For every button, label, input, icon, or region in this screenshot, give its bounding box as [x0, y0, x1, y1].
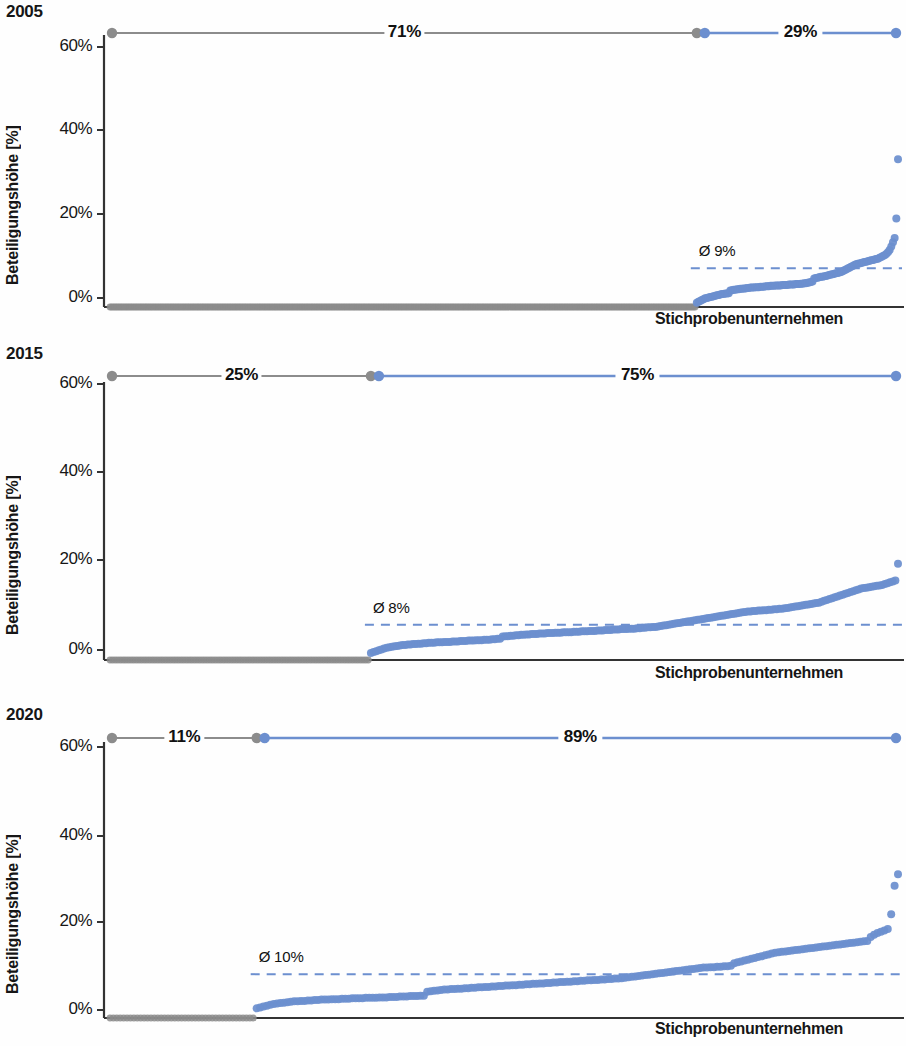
data-point	[109, 657, 116, 664]
data-point	[399, 641, 407, 649]
data-point	[625, 304, 632, 311]
data-point	[437, 986, 445, 994]
data-point	[798, 945, 806, 953]
data-point	[356, 304, 363, 311]
data-point	[206, 1015, 213, 1022]
data-point	[192, 304, 199, 311]
data-point	[439, 304, 446, 311]
data-point	[472, 304, 479, 311]
data-point	[836, 940, 844, 948]
data-point	[268, 304, 275, 311]
data-point	[377, 645, 385, 653]
data-point	[621, 304, 628, 311]
data-point	[261, 304, 268, 311]
data-point	[388, 643, 396, 651]
data-point	[588, 627, 596, 635]
data-point	[802, 279, 810, 287]
data-point	[758, 283, 766, 291]
data-point	[720, 290, 728, 298]
data-point	[753, 283, 761, 291]
data-point	[767, 282, 775, 290]
data-point	[705, 294, 713, 302]
data-point	[531, 304, 538, 311]
bracket-endpoint-marker	[891, 28, 901, 38]
data-point	[807, 278, 815, 286]
data-point	[324, 996, 332, 1004]
data-point	[315, 657, 322, 664]
data-point	[299, 304, 306, 311]
data-point	[120, 304, 127, 311]
data-point	[358, 304, 365, 311]
data-point	[242, 304, 249, 311]
data-point	[260, 1003, 268, 1011]
data-point	[136, 657, 143, 664]
data-point	[311, 304, 318, 311]
data-point	[532, 980, 540, 988]
data-point	[488, 982, 496, 990]
data-point	[618, 304, 625, 311]
data-point	[348, 304, 355, 311]
data-point	[266, 1001, 274, 1009]
data-point	[288, 304, 295, 311]
data-point	[430, 639, 438, 647]
data-point	[549, 304, 556, 311]
data-point	[693, 299, 701, 307]
data-point	[852, 260, 860, 268]
data-point	[355, 994, 363, 1002]
data-point	[365, 657, 372, 664]
data-point	[455, 304, 462, 311]
bracket-endpoint-marker	[259, 733, 269, 743]
data-point	[270, 1000, 278, 1008]
data-point	[731, 610, 739, 618]
data-point	[299, 657, 306, 664]
data-point	[663, 304, 670, 311]
data-point	[249, 657, 256, 664]
data-point	[142, 304, 149, 311]
data-point	[530, 630, 538, 638]
data-point	[391, 642, 399, 650]
data-point	[362, 657, 369, 664]
data-point	[788, 947, 796, 955]
data-point	[628, 304, 635, 311]
data-point	[303, 304, 310, 311]
data-point	[710, 292, 718, 300]
data-point	[130, 1015, 137, 1022]
data-point	[526, 980, 534, 988]
data-point	[491, 982, 499, 990]
data-point	[175, 657, 182, 664]
data-point	[275, 657, 282, 664]
data-point	[125, 657, 132, 664]
data-point	[465, 304, 472, 311]
data-point	[691, 616, 699, 624]
data-point	[241, 304, 248, 311]
data-point	[317, 657, 324, 664]
data-point	[874, 929, 882, 937]
x-axis-label: Stichprobenunternehmen	[655, 664, 843, 682]
data-point	[188, 1015, 195, 1022]
data-point	[829, 941, 837, 949]
data-point	[150, 304, 157, 311]
data-point	[529, 980, 537, 988]
data-point	[157, 657, 164, 664]
data-point	[351, 304, 358, 311]
data-point	[814, 274, 822, 282]
data-point	[352, 994, 360, 1002]
data-point	[649, 623, 657, 631]
data-point	[360, 304, 367, 311]
data-point	[688, 304, 695, 311]
data-point	[212, 304, 219, 311]
data-point	[385, 643, 393, 651]
data-point	[751, 283, 759, 291]
data-point	[762, 282, 770, 290]
data-point	[286, 657, 293, 664]
data-point	[420, 992, 428, 1000]
data-point	[234, 304, 241, 311]
data-point	[551, 304, 558, 311]
data-point	[323, 304, 330, 311]
data-point	[567, 628, 575, 636]
data-point	[341, 657, 348, 664]
data-point	[675, 304, 682, 311]
data-point	[151, 1015, 158, 1022]
data-point	[398, 304, 405, 311]
data-point	[401, 641, 409, 649]
